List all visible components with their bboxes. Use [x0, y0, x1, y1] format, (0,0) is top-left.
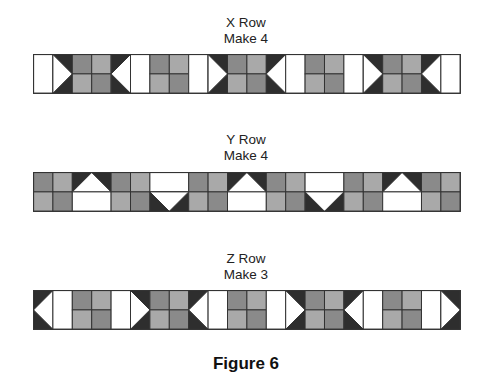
four-patch-block	[227, 54, 266, 93]
x-row-name: X Row	[0, 15, 480, 31]
white-bar-block	[189, 54, 208, 93]
four-patch-block	[72, 54, 111, 93]
white-bar-block	[286, 54, 305, 93]
four-patch-block	[305, 290, 344, 329]
x-row-strip	[33, 54, 461, 94]
white-bar-block	[34, 54, 53, 93]
z-row-quantity: Make 3	[0, 267, 480, 283]
goose-up-block	[383, 172, 422, 211]
z-row-name: Z Row	[0, 251, 480, 267]
tri-left-block	[34, 290, 53, 329]
z-row-title: Z Row Make 3	[0, 251, 480, 283]
y-row-quantity: Make 4	[0, 148, 480, 164]
x-row-quantity: Make 4	[0, 31, 480, 47]
tri-left-block	[344, 290, 363, 329]
tri-left-block	[189, 290, 208, 329]
four-patch-block	[266, 172, 305, 211]
tri-right-block	[208, 54, 227, 93]
four-patch-block	[383, 290, 422, 329]
white-bar-block	[266, 290, 285, 329]
white-bar-block	[208, 290, 227, 329]
four-patch-block	[189, 172, 228, 211]
tri-left-block	[421, 54, 440, 93]
four-patch-block	[227, 290, 266, 329]
y-row-strip	[33, 172, 461, 212]
tri-right-block	[363, 54, 382, 93]
white-bar-block	[363, 290, 382, 329]
tri-right-block	[131, 290, 150, 329]
four-patch-block	[72, 290, 111, 329]
white-bar-block	[53, 290, 72, 329]
white-bar-block	[131, 54, 150, 93]
tri-left-block	[111, 54, 130, 93]
y-row-title: Y Row Make 4	[0, 132, 480, 164]
white-bar-block	[441, 54, 460, 93]
four-patch-block	[421, 172, 460, 211]
goose-up-block	[227, 172, 266, 211]
y-row-name: Y Row	[0, 132, 480, 148]
goose-up-block	[72, 172, 111, 211]
white-bar-block	[344, 54, 363, 93]
x-row-title: X Row Make 4	[0, 15, 480, 47]
tri-right-block	[286, 290, 305, 329]
tri-left-block	[266, 54, 285, 93]
tri-right-block	[53, 54, 72, 93]
goose-down-block	[150, 172, 189, 211]
white-bar-block	[111, 290, 130, 329]
tri-right-block	[441, 290, 460, 329]
figure-caption: Figure 6	[0, 354, 480, 374]
four-patch-block	[34, 172, 73, 211]
four-patch-block	[150, 290, 189, 329]
white-bar-block	[421, 290, 440, 329]
four-patch-block	[305, 54, 344, 93]
z-row-strip	[33, 290, 461, 330]
goose-down-block	[305, 172, 344, 211]
four-patch-block	[150, 54, 189, 93]
four-patch-block	[383, 54, 422, 93]
four-patch-block	[344, 172, 383, 211]
four-patch-block	[111, 172, 150, 211]
